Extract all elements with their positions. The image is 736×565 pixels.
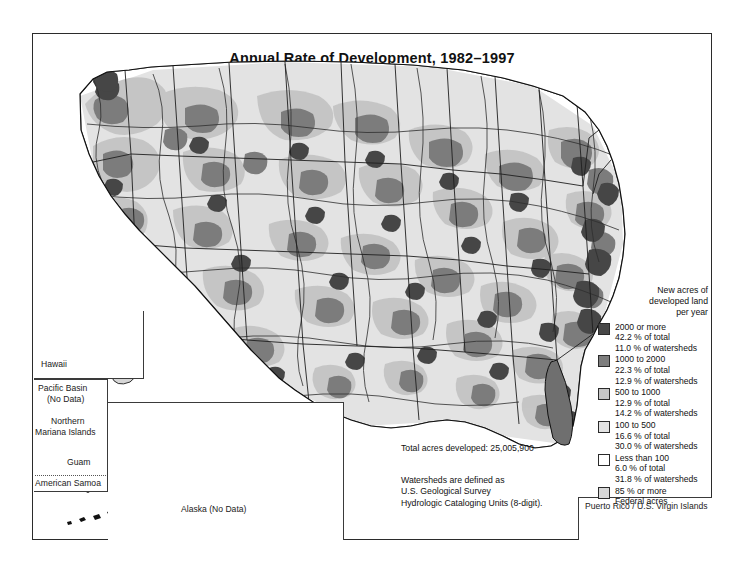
- northern-mariana-label-line2: Mariana Islands: [35, 427, 96, 437]
- legend-range: 85 % or more: [615, 486, 668, 497]
- legend-item-100-to-500: 100 to 500 16.6 % of total 30.0 % of wat…: [598, 420, 710, 452]
- legend-header-line1: New acres of: [598, 285, 708, 296]
- legend-header-line2: developed land: [598, 296, 708, 307]
- legend-percent-watersheds: 12.9 % of watersheds: [615, 376, 698, 387]
- legend-percent-total: 6.0 % of total: [615, 463, 698, 474]
- legend-percent-total: 16.6 % of total: [615, 431, 698, 442]
- legend-item-1000-to-2000: 1000 to 2000 22.3 % of total 12.9 % of w…: [598, 354, 710, 386]
- legend-percent-total: 12.9 % of total: [615, 398, 698, 409]
- american-samoa-label: American Samoa: [35, 478, 101, 488]
- watershed-definition-note: Watersheds are defined as U.S. Geologica…: [401, 475, 542, 509]
- legend-swatch-100-to-500: [598, 421, 610, 433]
- legend-percent-total: 22.3 % of total: [615, 365, 698, 376]
- northern-mariana-label-line1: Northern: [51, 416, 84, 426]
- legend-text-block: 100 to 500 16.6 % of total 30.0 % of wat…: [615, 420, 698, 452]
- alaska-inset-label: Alaska (No Data): [181, 504, 246, 514]
- alaska-inset: [108, 402, 344, 540]
- pacific-basin-label-line2: (No Data): [47, 394, 84, 404]
- legend-item-less-than-100: Less than 100 6.0 % of total 31.8 % of w…: [598, 453, 710, 485]
- legend-range: 500 to 1000: [615, 387, 698, 398]
- legend-item-500-to-1000: 500 to 1000 12.9 % of total 14.2 % of wa…: [598, 387, 710, 419]
- legend-percent-total: 42.2 % of total: [615, 332, 697, 343]
- legend-header-line3: per year: [598, 307, 708, 318]
- legend-text-block: 2000 or more 42.2 % of total 11.0 % of w…: [615, 322, 697, 354]
- legend-text-block: Less than 100 6.0 % of total 31.8 % of w…: [615, 453, 698, 485]
- legend-range: Less than 100: [615, 453, 698, 464]
- legend-text-block: 85 % or more Federal acres: [615, 486, 668, 507]
- legend-item-2000-or-more: 2000 or more 42.2 % of total 11.0 % of w…: [598, 322, 710, 354]
- legend-text-block: 500 to 1000 12.9 % of total 14.2 % of wa…: [615, 387, 698, 419]
- legend-swatch-500-to-1000: [598, 388, 610, 400]
- total-acres-note: Total acres developed: 25,005,900: [401, 443, 534, 454]
- legend-percent-watersheds: 30.0 % of watersheds: [615, 441, 698, 452]
- legend-item-federal-acres: 85 % or more Federal acres: [598, 486, 710, 507]
- map-legend: New acres of developed land per year 200…: [598, 285, 710, 508]
- legend-header: New acres of developed land per year: [598, 285, 710, 319]
- figure-border: Annual Rate of Development, 1982–1997: [32, 33, 712, 540]
- legend-swatch-federal-acres: [598, 487, 610, 499]
- pacific-inset-divider: [35, 475, 106, 476]
- map-figure: Annual Rate of Development, 1982–1997: [0, 0, 736, 565]
- legend-range: 100 to 500: [615, 420, 698, 431]
- hawaii-inset-label: Hawaii: [41, 359, 67, 369]
- legend-federal-acres: Federal acres: [615, 496, 668, 507]
- legend-percent-watersheds: 31.8 % of watersheds: [615, 474, 698, 485]
- legend-swatch-less-than-100: [598, 454, 610, 466]
- guam-label: Guam: [67, 457, 90, 467]
- legend-text-block: 1000 to 2000 22.3 % of total 12.9 % of w…: [615, 354, 698, 386]
- legend-range: 1000 to 2000: [615, 354, 698, 365]
- legend-swatch-2000-or-more: [598, 323, 610, 335]
- legend-swatch-1000-to-2000: [598, 355, 610, 367]
- legend-percent-watersheds: 11.0 % of watersheds: [615, 343, 697, 354]
- legend-percent-watersheds: 14.2 % of watersheds: [615, 408, 698, 419]
- pacific-basin-label-line1: Pacific Basin: [38, 383, 87, 393]
- legend-range: 2000 or more: [615, 322, 697, 333]
